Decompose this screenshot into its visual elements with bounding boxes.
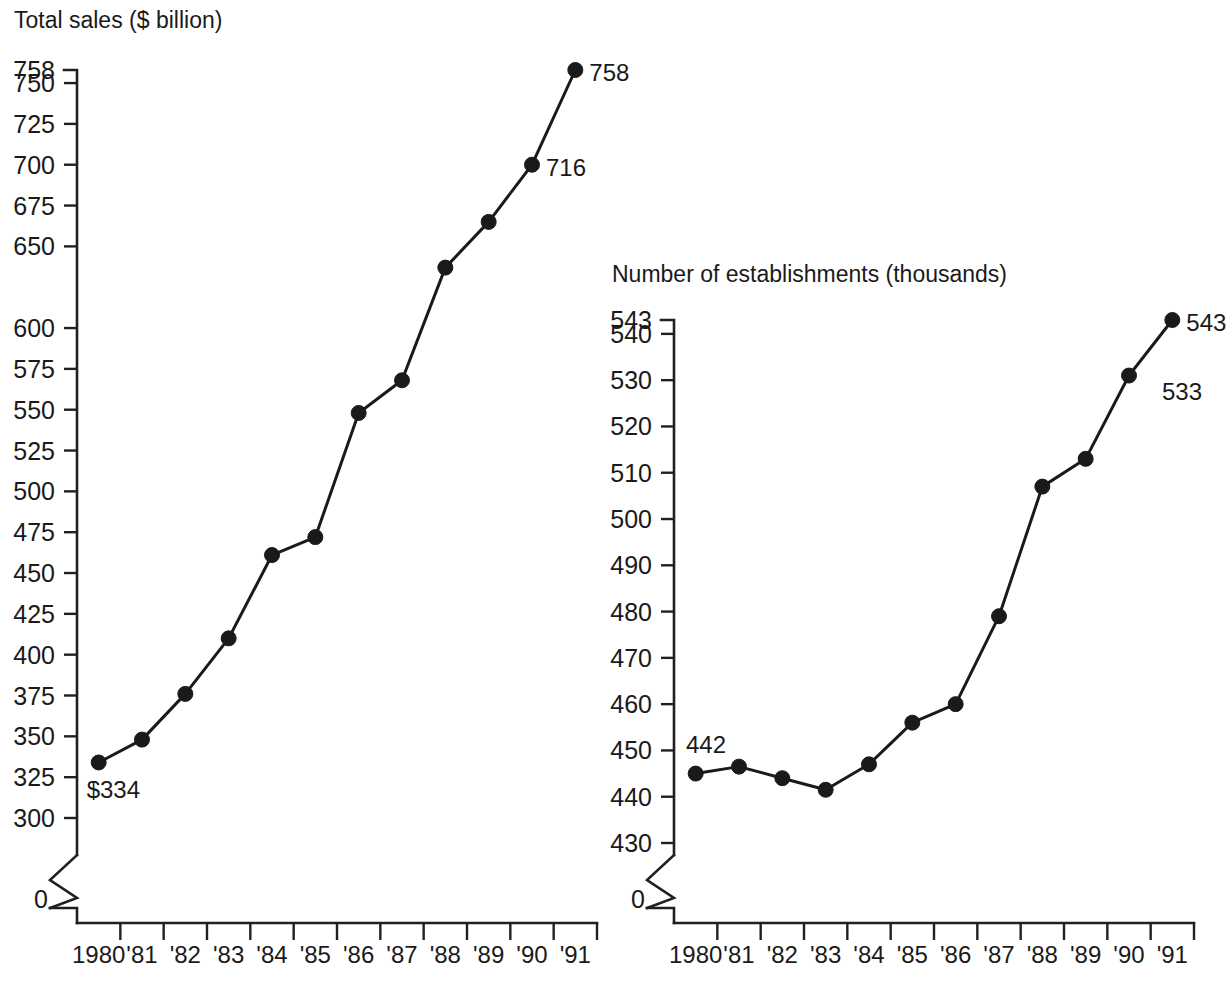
x-tick-label: '87 bbox=[386, 941, 417, 968]
data-point-marker bbox=[818, 782, 833, 797]
y-tick-label: 490 bbox=[610, 551, 652, 579]
y-tick-label: 425 bbox=[13, 600, 55, 628]
y-tick-label: 400 bbox=[13, 641, 55, 669]
y-axis-zero-label-number-of-establishments: 0 bbox=[631, 885, 645, 913]
data-point-marker bbox=[775, 771, 790, 786]
data-point-marker bbox=[265, 548, 280, 563]
y-tick-label: 550 bbox=[13, 396, 55, 424]
data-point-marker bbox=[178, 686, 193, 701]
y-tick-marks-total-sales bbox=[64, 83, 77, 818]
x-tick-label: '85 bbox=[300, 941, 331, 968]
data-point-marker bbox=[351, 405, 366, 420]
y-tick-label: 300 bbox=[13, 804, 55, 832]
x-tick-marks-total-sales bbox=[120, 923, 597, 940]
x-tick-label: '81 bbox=[723, 941, 754, 968]
data-point-marker bbox=[1165, 313, 1180, 328]
x-tick-label: '88 bbox=[1027, 941, 1058, 968]
y-tick-label: 430 bbox=[610, 829, 652, 857]
data-point-label: 758 bbox=[589, 59, 629, 86]
dual-line-chart-figure: Total sales ($ billion) 7587507257006756… bbox=[0, 0, 1232, 981]
x-tick-label: '90 bbox=[1113, 941, 1144, 968]
data-point-label: 533 bbox=[1162, 378, 1202, 405]
x-tick-label: '86 bbox=[343, 941, 374, 968]
point-annotations-total-sales: $334716758 bbox=[87, 59, 630, 803]
point-annotations-number-of-establishments: 442533543 bbox=[686, 309, 1226, 758]
x-tick-marks-number-of-establishments bbox=[717, 923, 1194, 940]
y-tick-label: 350 bbox=[13, 722, 55, 750]
data-point-marker bbox=[948, 697, 963, 712]
y-axis-break-zigzag bbox=[647, 855, 674, 908]
y-tick-label: 525 bbox=[13, 437, 55, 465]
x-tick-label: '83 bbox=[213, 941, 244, 968]
y-tick-label: 675 bbox=[13, 192, 55, 220]
y-tick-label: 440 bbox=[610, 783, 652, 811]
series-line-number-of-establishments bbox=[696, 320, 1173, 790]
y-tick-label: 520 bbox=[610, 412, 652, 440]
y-tick-labels-number-of-establishments: 543540530520510500490480470460450440430 bbox=[610, 306, 652, 857]
data-point-marker bbox=[525, 157, 540, 172]
y-tick-label: 375 bbox=[13, 682, 55, 710]
series-markers-total-sales bbox=[91, 63, 583, 770]
y-tick-label: 470 bbox=[610, 644, 652, 672]
y-tick-label: 480 bbox=[610, 598, 652, 626]
data-point-label: $334 bbox=[87, 776, 140, 803]
data-point-marker bbox=[481, 214, 496, 229]
x-tick-label: '85 bbox=[897, 941, 928, 968]
y-tick-label: 575 bbox=[13, 355, 55, 383]
x-tick-label: 1980 bbox=[669, 941, 722, 968]
x-tick-label: '81 bbox=[126, 941, 157, 968]
x-tick-label: '91 bbox=[560, 941, 591, 968]
y-tick-label: 500 bbox=[610, 505, 652, 533]
data-point-marker bbox=[905, 715, 920, 730]
x-tick-label: '82 bbox=[170, 941, 201, 968]
data-point-marker bbox=[732, 759, 747, 774]
x-tick-label: 1980 bbox=[72, 941, 125, 968]
x-tick-label: '90 bbox=[516, 941, 547, 968]
y-tick-label: 650 bbox=[13, 232, 55, 260]
chart-total-sales: Total sales ($ billion) 7587507257006756… bbox=[13, 7, 629, 968]
x-tick-label: '91 bbox=[1157, 941, 1188, 968]
data-point-label: 543 bbox=[1186, 309, 1226, 336]
chart-canvas: Total sales ($ billion) 7587507257006756… bbox=[0, 0, 1232, 981]
data-point-marker bbox=[1078, 451, 1093, 466]
x-tick-label: '89 bbox=[473, 941, 504, 968]
y-tick-label: 460 bbox=[610, 690, 652, 718]
y-axis-spine-upper bbox=[661, 320, 674, 855]
y-tick-label: 725 bbox=[13, 110, 55, 138]
y-axis-zero-label-total-sales: 0 bbox=[34, 885, 48, 913]
chart-title-number-of-establishments: Number of establishments (thousands) bbox=[612, 261, 1007, 287]
y-tick-label: 700 bbox=[13, 151, 55, 179]
data-point-marker bbox=[395, 373, 410, 388]
x-tick-label: '87 bbox=[983, 941, 1014, 968]
y-tick-label: 540 bbox=[610, 320, 652, 348]
y-tick-label: 530 bbox=[610, 366, 652, 394]
data-point-marker bbox=[91, 755, 106, 770]
y-tick-label: 475 bbox=[13, 518, 55, 546]
y-tick-label: 750 bbox=[13, 69, 55, 97]
x-tick-label: '86 bbox=[940, 941, 971, 968]
y-tick-label: 325 bbox=[13, 763, 55, 791]
data-point-marker bbox=[992, 609, 1007, 624]
x-tick-label: '88 bbox=[430, 941, 461, 968]
data-point-marker bbox=[1122, 368, 1137, 383]
y-axis-spine-lower bbox=[50, 908, 77, 923]
y-axis-break-zigzag bbox=[50, 855, 77, 908]
data-point-marker bbox=[308, 530, 323, 545]
y-tick-labels-total-sales: 7587507257006756506005755505255004754504… bbox=[13, 56, 55, 832]
data-point-label: 716 bbox=[546, 154, 586, 181]
y-tick-label: 510 bbox=[610, 459, 652, 487]
data-point-marker bbox=[862, 757, 877, 772]
series-line-total-sales bbox=[99, 70, 576, 762]
x-tick-label: '89 bbox=[1070, 941, 1101, 968]
y-tick-label: 450 bbox=[610, 736, 652, 764]
y-tick-label: 600 bbox=[13, 314, 55, 342]
data-point-marker bbox=[221, 631, 236, 646]
y-tick-label: 450 bbox=[13, 559, 55, 587]
x-tick-labels-total-sales: 1980'81'82'83'84'85'86'87'88'89'90'91 bbox=[72, 941, 591, 968]
chart-title-total-sales: Total sales ($ billion) bbox=[14, 7, 222, 33]
data-point-marker bbox=[688, 766, 703, 781]
data-point-label: 442 bbox=[686, 731, 726, 758]
x-tick-label: '84 bbox=[853, 941, 884, 968]
series-markers-number-of-establishments bbox=[688, 313, 1180, 798]
chart-number-of-establishments: Number of establishments (thousands) 543… bbox=[610, 261, 1226, 968]
